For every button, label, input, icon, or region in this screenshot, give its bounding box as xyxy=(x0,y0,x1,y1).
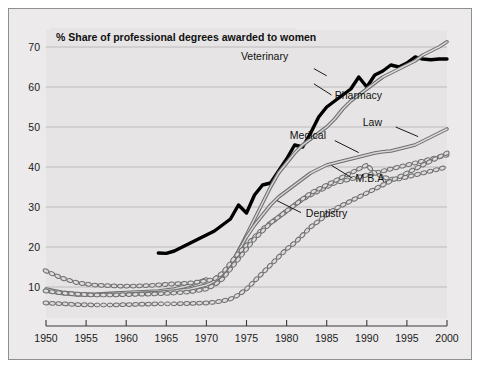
series-dash-Dentistry-16 xyxy=(145,302,151,306)
series-dash-Dentistry-13 xyxy=(126,303,132,307)
series-dash-M.B.A.-13 xyxy=(126,293,132,297)
series-dash-Medical-15 xyxy=(137,284,143,288)
series-dash-Medical-17 xyxy=(149,283,155,287)
x-tick-label-2000: 2000 xyxy=(435,332,459,344)
series-dash-Medical-24 xyxy=(194,280,200,284)
series-dash-M.B.A.-12 xyxy=(120,293,126,297)
x-tick-label-1985: 1985 xyxy=(315,332,339,344)
series-dash-Dentistry-4 xyxy=(69,302,75,306)
series-dash-Medical-8 xyxy=(92,283,98,287)
series-dash-M.B.A.-6 xyxy=(81,292,87,296)
series-dash-Dentistry-3 xyxy=(62,302,68,306)
series-dash-Dentistry-1 xyxy=(49,301,55,305)
series-dash-M.B.A.-2 xyxy=(56,290,62,294)
series-dash-Dentistry-8 xyxy=(94,303,100,307)
x-tick-label-1980: 1980 xyxy=(275,332,299,344)
series-dash-Dentistry-6 xyxy=(81,303,87,307)
chart-figure: 1020304050607019501955196019651970197519… xyxy=(0,0,480,368)
series-dash-Dentistry-5 xyxy=(75,303,81,307)
chart-canvas: 1020304050607019501955196019651970197519… xyxy=(0,0,480,368)
series-label-Veterinary: Veterinary xyxy=(241,50,289,62)
series-dash-Dentistry-15 xyxy=(139,302,145,306)
series-dash-Dentistry-21 xyxy=(177,302,183,306)
y-axis-labels: 10203040506070 xyxy=(28,41,40,293)
series-dash-Dentistry-7 xyxy=(88,303,94,307)
series-dash-Dentistry-27 xyxy=(215,299,221,304)
series-dash-Medical-10 xyxy=(105,284,111,288)
series-dash-Dentistry-2 xyxy=(56,302,62,306)
series-dash-Dentistry-24 xyxy=(197,301,203,305)
series-dash-M.B.A.-10 xyxy=(107,293,113,297)
series-dash-M.B.A.-0 xyxy=(43,289,49,293)
series-dash-Medical-7 xyxy=(85,282,91,286)
series-dash-M.B.A.-9 xyxy=(101,293,107,297)
series-label-Pharmacy: Pharmacy xyxy=(335,89,383,101)
series-dash-Dentistry-18 xyxy=(158,302,164,306)
series-dash-M.B.A.-16 xyxy=(145,292,151,296)
series-dash-Dentistry-10 xyxy=(107,303,113,307)
series-dash-M.B.A.-21 xyxy=(177,290,183,294)
series-dash-Dentistry-19 xyxy=(165,302,171,306)
series-dash-M.B.A.-25 xyxy=(202,287,208,292)
series-dash-M.B.A.-22 xyxy=(184,290,190,294)
series-dash-M.B.A.-3 xyxy=(62,291,68,295)
series-dash-M.B.A.-14 xyxy=(132,292,138,296)
series-dash-Dentistry-26 xyxy=(209,300,215,304)
y-tick-label-40: 40 xyxy=(28,161,40,173)
x-tick-label-1960: 1960 xyxy=(115,332,139,344)
series-dash-M.B.A.-23 xyxy=(190,289,196,294)
series-dash-M.B.A.-15 xyxy=(139,292,145,296)
y-tick-label-50: 50 xyxy=(28,121,40,133)
x-tick-label-1995: 1995 xyxy=(395,332,419,344)
x-tick-label-1975: 1975 xyxy=(235,332,259,344)
series-dash-M.B.A.-17 xyxy=(152,292,158,296)
x-tick-label-1965: 1965 xyxy=(155,332,179,344)
series-dash-Dentistry-25 xyxy=(203,301,209,305)
x-tick-label-1990: 1990 xyxy=(355,332,379,344)
series-dash-Dentistry-11 xyxy=(113,303,119,307)
series-dash-Medical-6 xyxy=(79,281,85,285)
series-dash-Medical-16 xyxy=(143,284,149,288)
series-dash-Dentistry-9 xyxy=(101,303,107,307)
series-dash-Medical-9 xyxy=(98,283,104,287)
series-dash-Medical-22 xyxy=(181,281,187,285)
y-tick-label-20: 20 xyxy=(28,241,40,253)
series-dash-Medical-11 xyxy=(111,284,117,288)
series-dash-Medical-14 xyxy=(130,284,136,288)
y-tick-label-10: 10 xyxy=(28,281,40,293)
series-dash-Dentistry-17 xyxy=(152,302,158,306)
series-label-M.B.A.: M.B.A. xyxy=(356,172,388,184)
series-dash-M.B.A.-4 xyxy=(68,292,74,296)
series-dash-Dentistry-20 xyxy=(171,302,177,306)
series-dash-Dentistry-23 xyxy=(190,301,196,305)
series-dash-M.B.A.-19 xyxy=(164,291,170,295)
series-dash-M.B.A.-7 xyxy=(88,293,94,297)
series-dash-Medical-12 xyxy=(117,284,123,288)
chart-title: % Share of professional degrees awarded … xyxy=(56,31,316,43)
series-dash-M.B.A.-1 xyxy=(49,290,55,294)
series-label-Medical: Medical xyxy=(290,129,326,141)
series-dash-Medical-23 xyxy=(188,281,194,285)
x-axis: 1950195519601965197019751980198519901995… xyxy=(34,320,459,344)
series-dash-M.B.A.-5 xyxy=(75,292,81,296)
series-dash-Dentistry-12 xyxy=(120,303,126,307)
y-tick-label-70: 70 xyxy=(28,41,40,53)
series-dash-M.B.A.-24 xyxy=(196,288,202,293)
series-dash-Medical-21 xyxy=(175,282,181,286)
x-tick-label-1955: 1955 xyxy=(74,332,98,344)
x-tick-label-1950: 1950 xyxy=(34,332,58,344)
y-tick-label-60: 60 xyxy=(28,81,40,93)
series-dash-M.B.A.-20 xyxy=(171,291,177,295)
y-tick-label-30: 30 xyxy=(28,201,40,213)
series-dash-M.B.A.-11 xyxy=(113,293,119,297)
series-dash-Dentistry-22 xyxy=(184,302,190,306)
x-tick-label-1970: 1970 xyxy=(195,332,219,344)
series-dash-M.B.A.-8 xyxy=(94,293,100,297)
series-dash-M.B.A.-18 xyxy=(158,292,164,296)
series-dash-Medical-13 xyxy=(124,284,130,288)
series-label-Dentistry: Dentistry xyxy=(306,207,348,219)
series-dash-Medical-25 xyxy=(200,279,206,283)
series-dash-Dentistry-0 xyxy=(43,301,49,305)
series-dash-Dentistry-14 xyxy=(133,302,139,306)
series-label-Law: Law xyxy=(363,116,383,128)
